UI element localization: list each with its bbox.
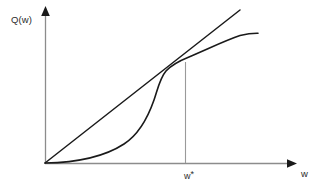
q-of-w-curve-series <box>45 33 258 163</box>
reference-ray-series <box>45 10 240 163</box>
x-axis-label: w <box>301 168 308 179</box>
y-axis-label: Q(w) <box>11 14 32 25</box>
w-star-tick-label: w* <box>184 169 194 182</box>
arrow-right-icon <box>287 159 297 168</box>
chart-figure: Q(w) w w* <box>0 0 318 186</box>
arrow-up-icon <box>41 6 50 16</box>
w-star-asterisk: * <box>191 169 195 179</box>
w-star-letter: w <box>184 171 191 181</box>
plot-canvas <box>0 0 318 186</box>
